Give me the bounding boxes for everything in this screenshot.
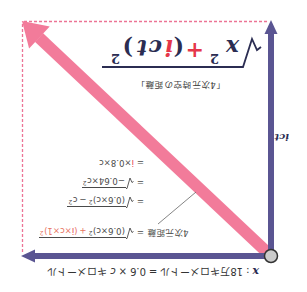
- sqrt-group: (0.6×c) 2 − c 2: [67, 196, 133, 208]
- plus-operator: +: [79, 227, 86, 236]
- equals-sign: =: [137, 179, 144, 188]
- radical-icon: [126, 227, 134, 239]
- sqrt-group: (0.6×c) 2 + ( i ×c×1) 2: [39, 227, 134, 239]
- sqrt-body: −0.64×c 2: [82, 177, 126, 188]
- term-negative-exponent: 2: [83, 181, 87, 187]
- radical-icon: [126, 177, 134, 189]
- formula-c: c: [149, 37, 162, 59]
- formula-left-paren: (: [174, 37, 184, 59]
- spacetime-distance-figure: x : 18万キロメートル = 0.6 × c キロメートル ict x 2 +…: [0, 0, 307, 292]
- hypotenuse-arrow-shaft: [39, 38, 271, 257]
- term-imag-i: i: [72, 227, 74, 236]
- x-axis-unit: キロメートル: [47, 266, 107, 276]
- time-axis-label: ict: [274, 132, 289, 142]
- result-i: i: [132, 159, 134, 168]
- rotated-diagram: x : 18万キロメートル = 0.6 × c キロメートル ict x 2 +…: [0, 0, 307, 292]
- formula-x: x: [226, 37, 239, 59]
- term-imag-open: (: [74, 227, 77, 236]
- sqrt-body: (0.6×c) 2 + ( i ×c×1) 2: [39, 227, 126, 238]
- x-axis-times: ×: [119, 266, 127, 276]
- x-axis-label: x : 18万キロメートル = 0.6 × c キロメートル: [47, 266, 259, 277]
- term-imag-exponent: 2: [40, 231, 44, 237]
- term-real: (0.6×c): [93, 227, 125, 236]
- equals-sign: =: [137, 229, 144, 238]
- term-real-exponent: 2: [89, 231, 93, 237]
- sqrt-group: −0.64×c 2: [82, 177, 134, 189]
- calc-line-3: = −0.64×c 2: [82, 177, 211, 189]
- term-imag-rest: ×c×1): [44, 227, 72, 236]
- x-axis-separator: :: [246, 266, 249, 276]
- term-real: (0.6×c): [93, 196, 125, 205]
- formula-imaginary-i: i: [165, 37, 173, 59]
- term-real-exponent: 2: [89, 200, 93, 206]
- calc-line-1: 4次元距離 = (0.6×c) 2 + ( i ×c×1) 2: [39, 227, 211, 239]
- radical-icon: [126, 196, 134, 208]
- formula-t: t: [137, 37, 147, 59]
- formula-paren-exponent: 2: [111, 52, 120, 65]
- x-axis-coefficient: 0.6: [130, 266, 146, 276]
- calc-line-2: = (0.6×c) 2 − c 2: [67, 196, 211, 208]
- formula-plus: +: [186, 40, 204, 62]
- x-axis-equals: =: [149, 266, 157, 276]
- calc-line-4: = i ×0.8×c: [99, 157, 211, 169]
- sqrt-body: (0.6×c) 2 − c 2: [67, 196, 125, 207]
- origin-point: [265, 250, 278, 263]
- formula-right-paren: ): [123, 37, 133, 59]
- x-axis-distance: 18万キロメートル: [160, 266, 243, 276]
- result-rest: ×0.8×c: [99, 159, 131, 168]
- calc-label: 4次元距離: [147, 229, 211, 238]
- x-variable: x: [252, 266, 259, 277]
- formula-caption: 「4次元時空の距離」: [136, 81, 225, 90]
- minus-operator: −: [79, 196, 86, 205]
- x-axis-c: c: [110, 266, 116, 276]
- term-negative: −0.64×c: [87, 177, 125, 186]
- equals-sign: =: [137, 198, 144, 207]
- term-c-exponent: 2: [68, 200, 72, 206]
- term-c: c: [73, 196, 78, 205]
- formula-x-exponent: 2: [210, 52, 219, 65]
- equals-sign: =: [137, 159, 144, 168]
